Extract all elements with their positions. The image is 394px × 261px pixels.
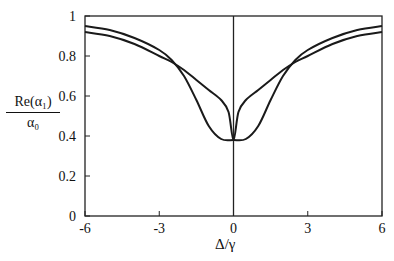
x-tick-label: -3: [153, 221, 165, 236]
x-tick-label: -6: [79, 221, 91, 236]
y-tick-label: 0: [69, 209, 76, 224]
y-tick-label: 0.2: [59, 169, 77, 184]
y-axis-label-denominator: α₀: [6, 113, 60, 131]
plot-frame: [85, 16, 382, 216]
y-tick-label: 0.8: [59, 49, 77, 64]
y-tick-label: 0.6: [59, 89, 77, 104]
x-tick-label: 0: [230, 221, 237, 236]
y-tick-label: 1: [69, 9, 76, 24]
x-tick-label: 6: [379, 221, 386, 236]
x-axis-label: Δ/γ: [215, 236, 235, 253]
y-tick-label: 0.4: [59, 129, 77, 144]
y-axis-label-numerator: Re(α₁): [6, 94, 60, 113]
y-axis-label: Re(α₁) α₀: [6, 94, 60, 131]
x-tick-label: 3: [304, 221, 311, 236]
